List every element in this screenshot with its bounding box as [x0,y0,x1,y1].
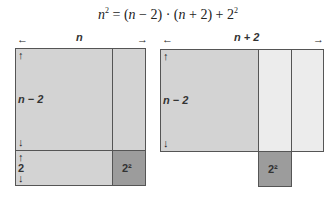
arrow-right-icon: → [313,34,324,45]
moved-strip [258,49,292,152]
corner-label: 2² [122,162,132,174]
region-2-by-n-minus-2 [291,49,324,152]
arrow-down-icon: ↓ [18,173,24,184]
eq-part: + 2) + 2 [186,7,234,22]
width-label: n [76,31,83,43]
region-n-minus-2-by-2 [15,150,113,186]
eq-n: n [98,7,105,22]
eq-n: n [179,7,186,22]
eq-exp: 2 [234,6,238,15]
arrow-left-icon: ← [17,34,28,45]
height-label: n − 2 [163,94,188,106]
arrow-down-icon: ↓ [163,138,169,149]
arrow-left-icon: ← [162,34,173,45]
arrow-right-icon: → [137,34,148,45]
width-label: n + 2 [234,31,259,43]
arrow-up-icon: ↑ [163,51,169,62]
remainder-label: 2² [268,163,278,175]
eq-part: = ( [109,7,129,22]
eq-part: − 2) · ( [136,7,179,22]
height-label: n − 2 [18,93,43,105]
equation: n2 = (n − 2) · (n + 2) + 22 [0,6,336,23]
arrow-up-icon: ↑ [18,50,24,61]
eq-n: n [129,7,136,22]
arrow-down-icon: ↓ [18,137,24,148]
region-2-by-n-minus-2 [112,48,146,151]
